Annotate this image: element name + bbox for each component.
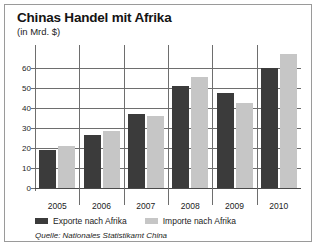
bar-export-2007: [128, 114, 145, 188]
legend-swatch-icon-exporte: [35, 218, 48, 224]
group-separator-2007: [124, 45, 125, 205]
y-tick-mark-60: [31, 68, 35, 69]
x-axis-label-2008: 2008: [168, 201, 212, 211]
x-axis-label-2010: 2010: [257, 201, 301, 211]
y-tick-mark-20: [31, 148, 35, 149]
bar-import-2005: [58, 146, 75, 188]
bar-export-2009: [217, 93, 234, 188]
bar-export-2006: [84, 135, 101, 188]
x-axis-label-2009: 2009: [212, 201, 256, 211]
chart-legend: Exporte nach Afrika Importe nach Afrika: [35, 216, 236, 226]
x-axis-label-2007: 2007: [124, 201, 168, 211]
legend-label-exporte: Exporte nach Afrika: [53, 216, 127, 226]
bar-export-2008: [172, 86, 189, 188]
legend-label-importe: Importe nach Afrika: [163, 216, 236, 226]
plot-wrapper: 0102030405060: [5, 45, 311, 200]
bar-import-2007: [147, 116, 164, 188]
y-tick-mark-50: [31, 88, 35, 89]
source-note: Quelle: Nationales Statistikamt China: [35, 231, 167, 240]
group-separator-2008: [168, 45, 169, 205]
bar-export-2010: [261, 68, 278, 188]
bar-import-2010: [280, 54, 297, 188]
y-tick-label-20: 20: [22, 144, 31, 153]
bar-import-2009: [236, 103, 253, 188]
x-axis-label-2006: 2006: [79, 201, 123, 211]
x-axis-label-2005: 2005: [35, 201, 79, 211]
bar-export-2005: [39, 150, 56, 188]
y-tick-label-40: 40: [22, 104, 31, 113]
chart-subtitle-unit: (in Mrd. $): [17, 26, 297, 38]
x-axis-labels: 200520062007200820092010: [35, 201, 301, 215]
y-tick-label-10: 10: [22, 164, 31, 173]
plot-area: 0102030405060: [35, 48, 301, 188]
group-separator-2006: [79, 45, 80, 205]
legend-item-exporte: Exporte nach Afrika: [35, 216, 127, 226]
bar-import-2006: [103, 131, 120, 188]
group-separator-2010: [257, 45, 258, 205]
chart-frame: Chinas Handel mit Afrika (in Mrd. $) 010…: [4, 4, 312, 242]
y-tick-label-60: 60: [22, 64, 31, 73]
y-tick-label-0: 0: [27, 184, 31, 193]
y-tick-mark-30: [31, 128, 35, 129]
y-tick-mark-10: [31, 168, 35, 169]
y-tick-label-50: 50: [22, 84, 31, 93]
group-separator-2009: [212, 45, 213, 205]
y-tick-mark-40: [31, 108, 35, 109]
legend-swatch-icon-importe: [145, 218, 158, 224]
y-tick-label-30: 30: [22, 124, 31, 133]
y-tick-mark-0: [31, 188, 35, 189]
bar-import-2008: [191, 77, 208, 188]
chart-title: Chinas Handel mit Afrika: [17, 10, 297, 25]
legend-item-importe: Importe nach Afrika: [145, 216, 236, 226]
chart-header: Chinas Handel mit Afrika (in Mrd. $): [17, 10, 297, 38]
